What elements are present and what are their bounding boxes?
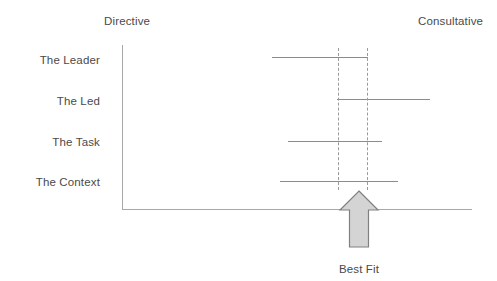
- row-label-the-led: The Led: [0, 95, 100, 108]
- best-fit-caption: Best Fit: [299, 263, 419, 276]
- best-fit-guide-line-right: [367, 48, 368, 190]
- row-label-the-task: The Task: [0, 136, 100, 149]
- arrow-up-icon: [338, 189, 380, 249]
- axis-label-consultative: Consultative: [418, 15, 483, 28]
- axis-label-directive: Directive: [104, 15, 150, 28]
- range-bar-the-leader: [272, 57, 368, 58]
- horizontal-axis-line: [122, 209, 472, 210]
- range-bar-the-context: [280, 181, 398, 182]
- best-fit-guide-line-left: [338, 48, 339, 190]
- vertical-axis-line: [122, 45, 123, 210]
- diagram-canvas: Directive Consultative The Leader The Le…: [0, 0, 497, 281]
- row-label-the-context: The Context: [0, 176, 100, 189]
- row-label-the-leader: The Leader: [0, 54, 100, 67]
- range-bar-the-led: [337, 99, 430, 100]
